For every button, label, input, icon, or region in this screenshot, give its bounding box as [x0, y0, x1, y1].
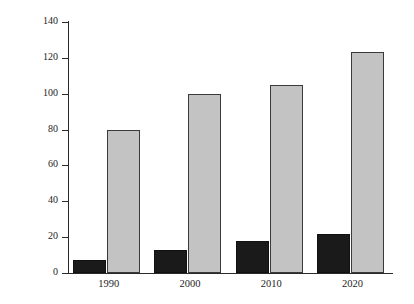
y-tick-mark: [62, 201, 68, 202]
y-tick-mark: [62, 165, 68, 166]
y-tick-label: 100: [20, 88, 58, 98]
y-tick-label: 120: [20, 52, 58, 62]
x-tick-label: 2010: [241, 279, 301, 290]
x-tick-label: 2020: [322, 279, 382, 290]
y-tick-label: 140: [20, 16, 58, 26]
y-tick-mark: [62, 58, 68, 59]
bar-light-series-2020: [351, 52, 384, 273]
y-tick-label: 20: [20, 231, 58, 241]
y-tick-mark: [62, 237, 68, 238]
y-tick-mark: [62, 130, 68, 131]
y-tick-label: 60: [20, 159, 58, 169]
x-axis-line: [68, 273, 393, 274]
y-tick-label: 0: [20, 267, 58, 277]
bar-dark-series-2010: [236, 241, 269, 273]
y-axis-line: [68, 21, 69, 274]
x-tick-label: 1990: [79, 279, 139, 290]
y-tick-label: 40: [20, 195, 58, 205]
bar-chart-figure: Number of deaths (1000s) 020406080100120…: [0, 0, 414, 304]
y-tick-mark: [62, 22, 68, 23]
bar-light-series-2000: [188, 94, 221, 273]
bar-light-series-1990: [107, 130, 140, 273]
y-tick-mark: [62, 94, 68, 95]
y-tick-mark: [62, 273, 68, 274]
bar-light-series-2010: [270, 85, 303, 273]
bar-dark-series-2020: [317, 234, 350, 273]
bar-dark-series-1990: [73, 260, 106, 273]
x-tick-label: 2000: [160, 279, 220, 290]
bar-dark-series-2000: [154, 250, 187, 273]
y-tick-label: 80: [20, 124, 58, 134]
